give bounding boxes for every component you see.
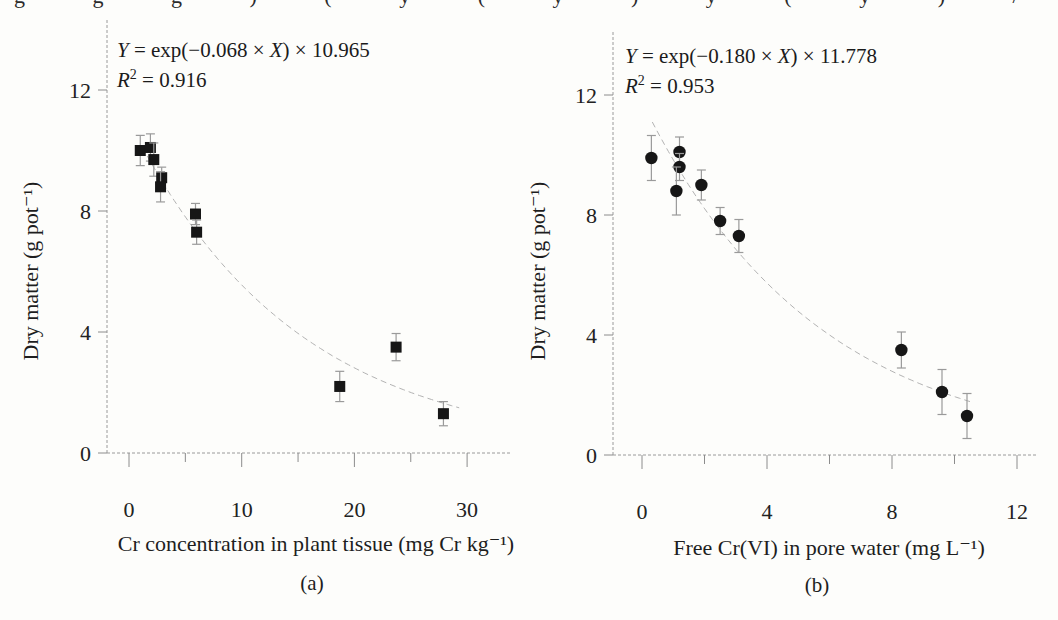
data-point-circle bbox=[961, 410, 973, 422]
x-tick-label: 12 bbox=[1006, 499, 1028, 524]
fit-curve bbox=[143, 147, 460, 408]
data-point-circle bbox=[714, 215, 726, 227]
y-tick-label: 12 bbox=[575, 83, 597, 108]
r-squared-b-var: R bbox=[625, 74, 638, 98]
x-tick-label: 0 bbox=[637, 499, 648, 524]
data-point-circle bbox=[733, 230, 745, 242]
x-axis-label-a: Cr concentration in plant tissue (mg Cr … bbox=[86, 531, 546, 557]
x-tick-label: 20 bbox=[343, 497, 365, 522]
data-point-circle bbox=[645, 152, 657, 164]
equation-b-yvar: Y bbox=[625, 44, 637, 68]
equation-a-yvar: Y bbox=[117, 38, 129, 62]
equation-a-tail: ) × 10.965 bbox=[283, 38, 370, 62]
equation-a-mid: = exp(−0.068 × bbox=[129, 38, 270, 62]
equation-b: Y = exp(−0.180 × X) × 11.778 bbox=[625, 44, 877, 69]
data-point-circle bbox=[695, 179, 707, 191]
x-tick-label: 30 bbox=[456, 497, 478, 522]
x-tick-label: 4 bbox=[762, 499, 773, 524]
data-point-square bbox=[148, 154, 159, 165]
r-squared-a-value: = 0.916 bbox=[137, 68, 207, 92]
equation-b-tail: ) × 11.778 bbox=[791, 44, 877, 68]
x-tick-label: 0 bbox=[124, 497, 135, 522]
data-point-circle bbox=[670, 185, 682, 197]
data-point-square bbox=[191, 227, 202, 238]
y-tick-label: 0 bbox=[586, 443, 597, 468]
equation-b-mid: = exp(−0.180 × bbox=[637, 44, 778, 68]
y-tick-label: 12 bbox=[69, 78, 91, 103]
y-tick-label: 8 bbox=[80, 199, 91, 224]
panel-letter-a: (a) bbox=[272, 571, 352, 596]
data-point-circle bbox=[895, 344, 907, 356]
data-point-circle bbox=[936, 386, 948, 398]
y-tick-label: 8 bbox=[586, 203, 597, 228]
data-point-square bbox=[391, 342, 402, 353]
r-squared-a-exponent: 2 bbox=[130, 67, 137, 82]
y-axis-label-b: Dry matter (g pot⁻¹) bbox=[525, 111, 551, 431]
equation-b-xvar: X bbox=[778, 44, 791, 68]
y-tick-label: 4 bbox=[80, 320, 91, 345]
x-axis-label-b: Free Cr(VI) in pore water (mg L⁻¹) bbox=[599, 535, 1058, 561]
data-point-square bbox=[334, 381, 345, 392]
figure-canvas: g g g ) ( y ( y ) y ( y ) / 048120102030… bbox=[0, 0, 1058, 620]
y-tick-label: 4 bbox=[586, 323, 597, 348]
fit-curve bbox=[652, 122, 971, 402]
data-point-square bbox=[135, 145, 146, 156]
equation-a: Y = exp(−0.068 × X) × 10.965 bbox=[117, 38, 370, 63]
r-squared-b-value: = 0.953 bbox=[645, 74, 715, 98]
data-point-square bbox=[438, 408, 449, 419]
data-point-square bbox=[190, 209, 201, 220]
equation-a-xvar: X bbox=[270, 38, 283, 62]
r-squared-a-var: R bbox=[117, 68, 130, 92]
x-tick-label: 10 bbox=[231, 497, 253, 522]
panel-letter-b: (b) bbox=[777, 573, 857, 598]
data-point-square bbox=[155, 181, 166, 192]
x-tick-label: 8 bbox=[887, 499, 898, 524]
r-squared-a: R2 = 0.916 bbox=[117, 68, 206, 93]
r-squared-b-exponent: 2 bbox=[638, 73, 645, 88]
r-squared-b: R2 = 0.953 bbox=[625, 74, 714, 99]
y-tick-label: 0 bbox=[80, 441, 91, 466]
y-axis-label-a: Dry matter (g pot⁻¹) bbox=[18, 111, 44, 431]
